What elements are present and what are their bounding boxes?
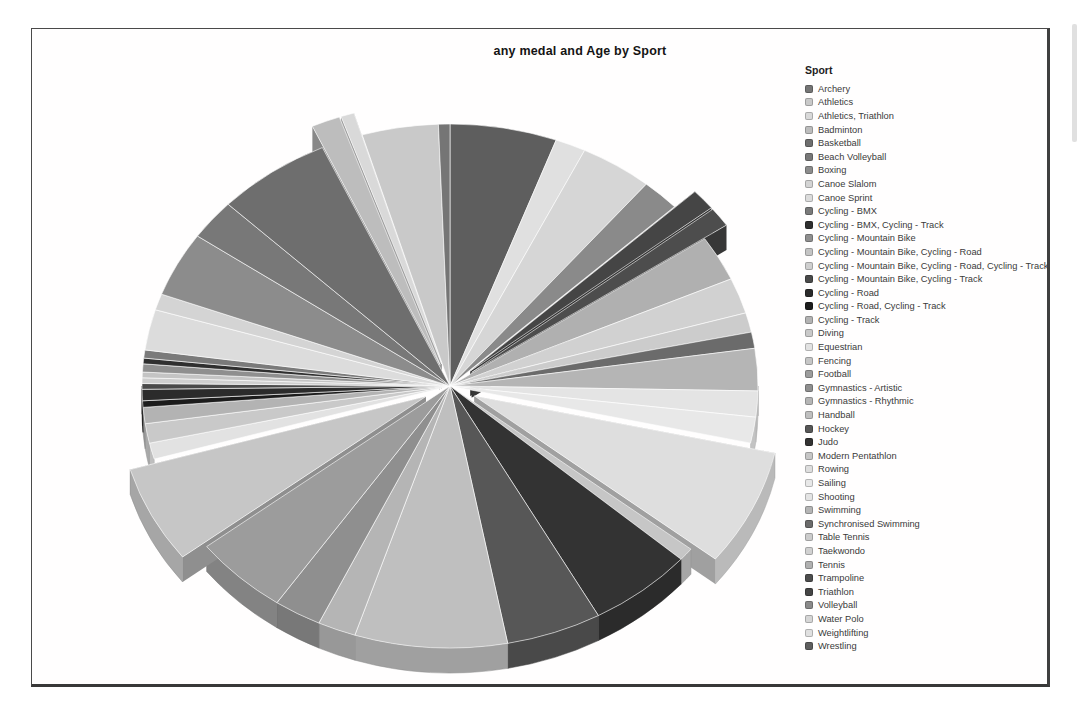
legend-swatch-icon bbox=[805, 139, 813, 147]
legend-swatch-icon bbox=[805, 629, 813, 637]
legend-label: Handball bbox=[818, 410, 855, 420]
legend-swatch-icon bbox=[805, 316, 813, 324]
legend-item: Shooting bbox=[805, 490, 1055, 504]
legend-label: Cycling - Mountain Bike bbox=[818, 233, 916, 243]
legend-swatch-icon bbox=[805, 452, 813, 460]
legend-label: Cycling - Road bbox=[818, 288, 879, 298]
legend-label: Volleyball bbox=[818, 600, 857, 610]
legend-item: Taekwondo bbox=[805, 544, 1055, 558]
legend-swatch-icon bbox=[805, 85, 813, 93]
legend-swatch-icon bbox=[805, 493, 813, 501]
legend-swatch-icon bbox=[805, 166, 813, 174]
legend-swatch-icon bbox=[805, 397, 813, 405]
legend-item: Modern Pentathlon bbox=[805, 449, 1055, 463]
legend-label: Cycling - Track bbox=[818, 315, 879, 325]
legend-label: Beach Volleyball bbox=[818, 152, 886, 162]
legend-label: Cycling - Mountain Bike, Cycling - Road bbox=[818, 247, 982, 257]
legend-item: Athletics bbox=[805, 96, 1055, 110]
legend-swatch-icon bbox=[805, 561, 813, 569]
legend-swatch-icon bbox=[805, 370, 813, 378]
legend-title: Sport bbox=[805, 64, 1055, 76]
legend-label: Gymnastics - Rhythmic bbox=[818, 396, 914, 406]
legend-item: Cycling - Mountain Bike, Cycling - Track bbox=[805, 272, 1055, 286]
legend-item: Water Polo bbox=[805, 612, 1055, 626]
legend-swatch-icon bbox=[805, 98, 813, 106]
legend-swatch-icon bbox=[805, 207, 813, 215]
legend-item: Archery bbox=[805, 82, 1055, 96]
legend-label: Gymnastics - Artistic bbox=[818, 383, 902, 393]
legend-swatch-icon bbox=[805, 262, 813, 270]
legend-item: Cycling - Road, Cycling - Track bbox=[805, 300, 1055, 314]
legend-swatch-icon bbox=[805, 438, 813, 446]
legend-label: Tennis bbox=[818, 560, 845, 570]
legend-item: Cycling - BMX, Cycling - Track bbox=[805, 218, 1055, 232]
legend-swatch-icon bbox=[805, 289, 813, 297]
legend-item: Table Tennis bbox=[805, 531, 1055, 545]
legend-item: Beach Volleyball bbox=[805, 150, 1055, 164]
legend-swatch-icon bbox=[805, 574, 813, 582]
legend-label: Canoe Sprint bbox=[818, 193, 872, 203]
legend-label: Basketball bbox=[818, 138, 861, 148]
legend-item: Hockey bbox=[805, 422, 1055, 436]
legend-item: Badminton bbox=[805, 123, 1055, 137]
legend-item: Triathlon bbox=[805, 585, 1055, 599]
legend-item: Volleyball bbox=[805, 599, 1055, 613]
legend-swatch-icon bbox=[805, 112, 813, 120]
legend-label: Boxing bbox=[818, 165, 846, 175]
legend-label: Judo bbox=[818, 437, 838, 447]
legend-label: Cycling - BMX bbox=[818, 206, 877, 216]
legend-label: Triathlon bbox=[818, 587, 854, 597]
legend-rows: ArcheryAthleticsAthletics, TriathlonBadm… bbox=[805, 82, 1055, 653]
legend-item: Cycling - Mountain Bike, Cycling - Road,… bbox=[805, 259, 1055, 273]
legend-item: Synchronised Swimming bbox=[805, 517, 1055, 531]
legend-swatch-icon bbox=[805, 221, 813, 229]
legend-swatch-icon bbox=[805, 248, 813, 256]
legend-swatch-icon bbox=[805, 275, 813, 283]
legend-swatch-icon bbox=[805, 465, 813, 473]
legend-label: Sailing bbox=[818, 478, 846, 488]
legend-swatch-icon bbox=[805, 588, 813, 596]
legend-label: Weightlifting bbox=[818, 628, 868, 638]
legend-label: Cycling - Road, Cycling - Track bbox=[818, 301, 946, 311]
legend-label: Badminton bbox=[818, 125, 862, 135]
legend-swatch-icon bbox=[805, 615, 813, 623]
legend-swatch-icon bbox=[805, 520, 813, 528]
legend-swatch-icon bbox=[805, 533, 813, 541]
legend-label: Rowing bbox=[818, 464, 849, 474]
legend-item: Diving bbox=[805, 327, 1055, 341]
legend-item: Cycling - Track bbox=[805, 313, 1055, 327]
legend-label: Cycling - BMX, Cycling - Track bbox=[818, 220, 944, 230]
legend-swatch-icon bbox=[805, 343, 813, 351]
legend-label: Shooting bbox=[818, 492, 855, 502]
legend-item: Tennis bbox=[805, 558, 1055, 572]
legend-swatch-icon bbox=[805, 357, 813, 365]
legend: Sport ArcheryAthleticsAthletics, Triathl… bbox=[805, 64, 1055, 653]
legend-label: Football bbox=[818, 369, 851, 379]
legend-label: Hockey bbox=[818, 424, 849, 434]
legend-item: Canoe Sprint bbox=[805, 191, 1055, 205]
legend-label: Canoe Slalom bbox=[818, 179, 876, 189]
legend-item: Football bbox=[805, 367, 1055, 381]
legend-item: Judo bbox=[805, 435, 1055, 449]
legend-item: Canoe Slalom bbox=[805, 177, 1055, 191]
legend-swatch-icon bbox=[805, 180, 813, 188]
legend-swatch-icon bbox=[805, 234, 813, 242]
legend-label: Water Polo bbox=[818, 614, 864, 624]
legend-swatch-icon bbox=[805, 601, 813, 609]
legend-swatch-icon bbox=[805, 153, 813, 161]
legend-label: Taekwondo bbox=[818, 546, 865, 556]
legend-item: Gymnastics - Artistic bbox=[805, 381, 1055, 395]
legend-item: Trampoline bbox=[805, 571, 1055, 585]
legend-label: Wrestling bbox=[818, 641, 857, 651]
legend-swatch-icon bbox=[805, 302, 813, 310]
legend-swatch-icon bbox=[805, 479, 813, 487]
legend-swatch-icon bbox=[805, 642, 813, 650]
legend-item: Boxing bbox=[805, 164, 1055, 178]
legend-label: Diving bbox=[818, 328, 844, 338]
legend-label: Modern Pentathlon bbox=[818, 451, 897, 461]
legend-item: Weightlifting bbox=[805, 626, 1055, 640]
legend-item: Equestrian bbox=[805, 340, 1055, 354]
legend-item: Rowing bbox=[805, 463, 1055, 477]
legend-item: Gymnastics - Rhythmic bbox=[805, 395, 1055, 409]
legend-item: Handball bbox=[805, 408, 1055, 422]
